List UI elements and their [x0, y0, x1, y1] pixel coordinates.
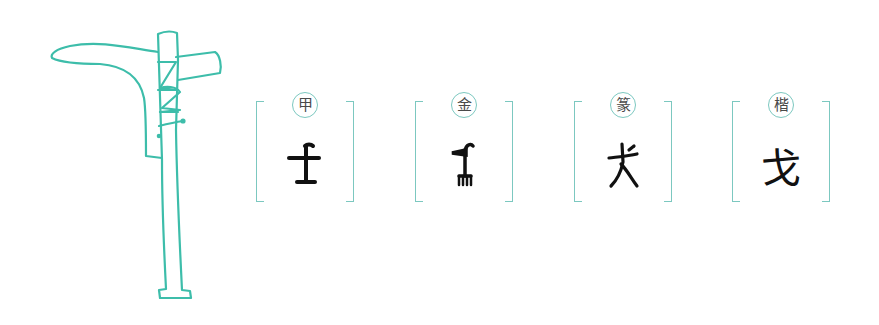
script-badge: 甲	[292, 92, 318, 118]
regular-script-character: 戈	[732, 136, 830, 194]
right-bracket	[664, 101, 672, 202]
script-panel-regular: 楷 戈	[732, 92, 830, 202]
script-panel-bronze: 金	[415, 92, 513, 202]
script-badge: 金	[451, 92, 477, 118]
seal-glyph	[593, 132, 653, 192]
bronze-glyph	[434, 132, 494, 192]
script-panel-oracle-bone: 甲	[256, 92, 354, 202]
left-bracket	[415, 101, 423, 202]
left-bracket	[256, 101, 264, 202]
right-bracket	[346, 101, 354, 202]
left-bracket	[574, 101, 582, 202]
script-panel-seal: 篆	[574, 92, 672, 202]
dagger-axe-illustration	[0, 0, 250, 325]
oracle-bone-glyph	[275, 132, 335, 192]
script-badge: 篆	[610, 92, 636, 118]
script-badge: 楷	[768, 92, 794, 118]
right-bracket	[505, 101, 513, 202]
